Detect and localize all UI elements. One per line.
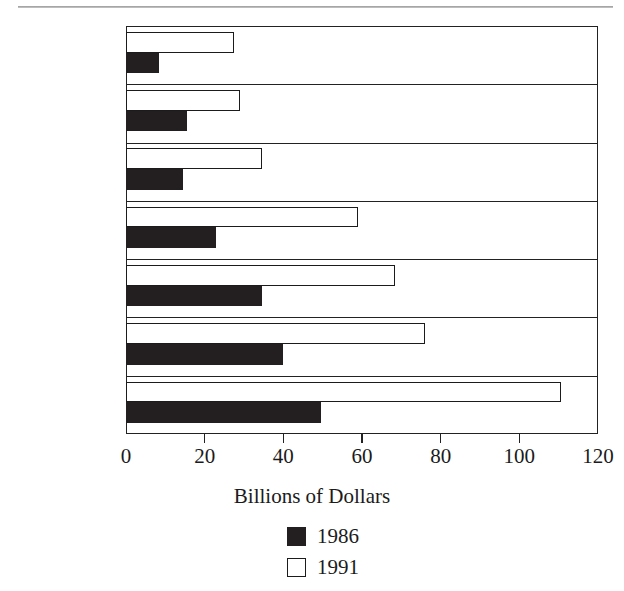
x-axis-tick-label: 80 bbox=[411, 444, 471, 469]
bar-1991 bbox=[126, 382, 561, 403]
legend-item-1986: 1986 bbox=[287, 521, 624, 552]
category-separator bbox=[126, 143, 598, 144]
bar-chart: ThailandIndonesiaMalaysiaSingaporeKoreaT… bbox=[0, 0, 624, 591]
x-axis-title: Billions of Dollars bbox=[0, 484, 624, 509]
x-axis-tick-label: 0 bbox=[96, 444, 156, 469]
x-axis-tick-label: 60 bbox=[332, 444, 392, 469]
bar-1986 bbox=[126, 169, 183, 190]
bar-1986 bbox=[126, 111, 187, 132]
bar-1991 bbox=[126, 32, 234, 53]
chart-legend: 1986 1991 bbox=[0, 521, 624, 583]
legend-swatch-1991-icon bbox=[287, 558, 306, 577]
bar-1986 bbox=[126, 402, 321, 423]
bar-1991 bbox=[126, 323, 425, 344]
bar-1986 bbox=[126, 53, 159, 74]
x-axis-tick-label: 40 bbox=[253, 444, 313, 469]
x-axis-tick-label: 20 bbox=[175, 444, 235, 469]
bar-1986 bbox=[126, 344, 283, 365]
x-axis-tick-label: 120 bbox=[568, 444, 624, 469]
bar-1986 bbox=[126, 286, 262, 307]
legend-item-1991: 1991 bbox=[287, 552, 624, 583]
category-separator bbox=[126, 84, 598, 85]
x-axis-tick bbox=[283, 434, 285, 443]
category-separator bbox=[126, 317, 598, 318]
legend-swatch-1986-icon bbox=[287, 527, 306, 546]
bar-1986 bbox=[126, 227, 216, 248]
legend-label-1986: 1986 bbox=[317, 524, 359, 549]
bar-1991 bbox=[126, 148, 262, 169]
x-axis-tick bbox=[519, 434, 521, 443]
bar-1991 bbox=[126, 207, 358, 228]
x-axis-tick bbox=[361, 434, 363, 443]
legend-label-1991: 1991 bbox=[317, 555, 359, 580]
x-axis-tick bbox=[204, 434, 206, 443]
category-separator bbox=[126, 201, 598, 202]
x-axis-tick-label: 100 bbox=[489, 444, 549, 469]
category-separator bbox=[126, 376, 598, 377]
x-axis-tick bbox=[440, 434, 442, 443]
bar-1991 bbox=[126, 90, 240, 111]
category-separator bbox=[126, 259, 598, 260]
bar-1991 bbox=[126, 265, 395, 286]
